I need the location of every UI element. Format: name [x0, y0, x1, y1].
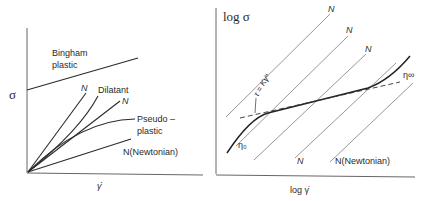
eta-zero-label: η₀ [238, 140, 247, 150]
newtonian-steep-line [28, 93, 86, 172]
eta-inf-label: η∞ [403, 70, 414, 80]
left-x-axis [27, 173, 203, 175]
left-panel: σ γ̇ Bingham plastic N Dilatant N Pseudo… [9, 28, 203, 191]
right-y-label: log σ [223, 9, 250, 24]
n-steep-label: N [81, 83, 88, 93]
right-x-axis [216, 175, 415, 177]
n-label-5: N(Newtonian) [335, 156, 390, 166]
pseudoplastic-curve [28, 119, 135, 172]
pseudoplastic-label-2: plastic [137, 126, 163, 136]
newtonian-line-4 [295, 63, 396, 158]
left-y-label: σ [9, 87, 16, 102]
bingham-label-2: plastic [52, 60, 78, 70]
left-x-label: γ̇ [97, 181, 103, 191]
pseudoplastic-label-1: Pseudo – [137, 114, 175, 124]
rheology-diagram: σ γ̇ Bingham plastic N Dilatant N Pseudo… [0, 0, 424, 201]
newtonian-low-line [28, 139, 131, 172]
n-label-4: N [297, 156, 304, 166]
n-label-3: N [365, 44, 372, 54]
n-label-2: N [346, 25, 353, 35]
right-x-label: log γ̇ [290, 185, 310, 195]
power-law-pointer [255, 98, 256, 113]
n-mid-label: N [122, 96, 129, 106]
n-label-1: N [328, 4, 335, 14]
bingham-label-1: Bingham [52, 48, 88, 58]
power-law-label: τ = Kγ̇ⁿ [252, 72, 272, 98]
newtonian-label: N(Newtonian) [123, 147, 178, 157]
dilatant-label: Dilatant [98, 85, 129, 95]
right-panel: log σ log γ̇ τ = Kγ̇ⁿ η₀ η∞ N N N N N(Ne… [216, 4, 415, 195]
flow-curve [227, 56, 410, 153]
